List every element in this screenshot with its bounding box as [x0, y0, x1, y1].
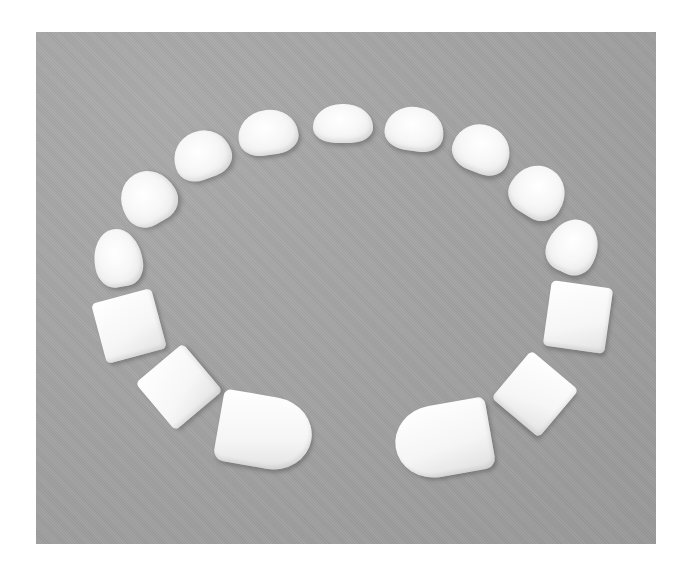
foam-piece-incisor-right — [389, 396, 496, 484]
foam-piece-molar-left-1 — [89, 225, 146, 290]
foam-piece-molar-right-1 — [539, 211, 608, 282]
foam-piece-molar-right-3 — [446, 116, 518, 182]
foam-piece-incisor-left — [212, 388, 317, 475]
foam-piece-molar-right-2 — [500, 155, 575, 229]
foam-piece-molar-center-right — [382, 103, 447, 155]
photo-background — [36, 32, 656, 544]
foam-piece-square-right-upper — [543, 280, 614, 354]
foam-piece-square-left-lower — [135, 343, 222, 430]
foam-piece-molar-center-left — [313, 104, 373, 143]
foam-piece-molar-left-2 — [110, 161, 185, 236]
foam-piece-square-right-lower — [491, 350, 578, 437]
foam-piece-molar-left-3 — [167, 123, 238, 188]
foam-piece-square-left-upper — [91, 288, 167, 364]
foam-piece-molar-left-4 — [235, 106, 301, 159]
